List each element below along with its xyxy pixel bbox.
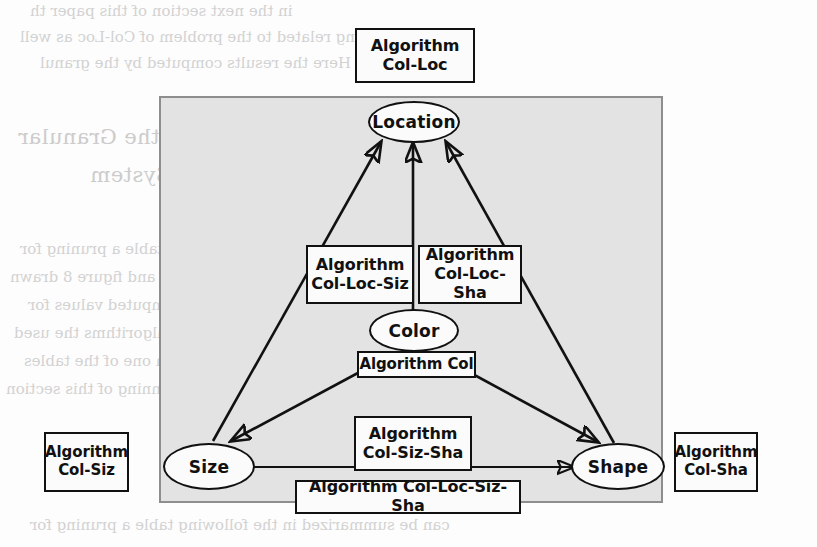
algorithm-box-col-loc-sha[interactable]: Algorithm Col-Loc-Sha [418, 245, 522, 304]
algorithm-box-col-sha[interactable]: Algorithm Col-Sha [674, 432, 758, 492]
algorithm-box-col-loc-line1: Algorithm [371, 37, 460, 56]
algorithm-box-col-loc-line2: Col-Loc [383, 56, 448, 75]
node-shape[interactable]: Shape [571, 443, 665, 490]
node-size[interactable]: Size [163, 443, 255, 490]
algorithm-box-col-loc[interactable]: Algorithm Col-Loc [355, 28, 475, 83]
node-color-label: Color [388, 321, 439, 341]
algorithm-box-col-loc-siz-line1: Algorithm [316, 256, 405, 275]
algorithm-box-col-siz-sha-line2: Col-Siz-Sha [363, 444, 463, 463]
algorithm-box-col-loc-sha-line2: Col-Loc-Sha [420, 265, 520, 303]
node-shape-label: Shape [588, 457, 649, 477]
algorithm-box-col-siz-line2: Col-Siz [58, 462, 115, 480]
scanned-page: in the next section of this paper th eve… [0, 0, 817, 547]
algorithm-box-col-loc-siz-sha-line1: Algorithm Col-Loc-Siz-Sha [297, 478, 519, 516]
algorithm-box-col-sha-line2: Col-Sha [684, 462, 748, 480]
algorithm-box-col-siz-line1: Algorithm [45, 444, 128, 462]
node-location-label: Location [372, 112, 455, 132]
algorithm-graph-diagram: Location Color Size Shape Algorithm Col-… [0, 0, 817, 547]
algorithm-box-col-siz-sha-line1: Algorithm [369, 425, 458, 444]
algorithm-box-col-sha-line1: Algorithm [675, 444, 758, 462]
node-color[interactable]: Color [369, 309, 459, 352]
algorithm-box-col-siz-sha[interactable]: Algorithm Col-Siz-Sha [354, 416, 472, 471]
algorithm-box-col-loc-siz-sha[interactable]: Algorithm Col-Loc-Siz-Sha [295, 480, 521, 514]
algorithm-box-col-loc-siz-line2: Col-Loc-Siz [311, 275, 408, 294]
node-location[interactable]: Location [368, 101, 460, 143]
algorithm-box-col-line1: Algorithm Col [359, 356, 473, 374]
algorithm-box-col-siz[interactable]: Algorithm Col-Siz [44, 432, 129, 492]
algorithm-box-col-loc-siz[interactable]: Algorithm Col-Loc-Siz [306, 245, 414, 304]
node-size-label: Size [189, 457, 229, 477]
algorithm-box-col[interactable]: Algorithm Col [357, 351, 476, 378]
algorithm-box-col-loc-sha-line1: Algorithm [426, 246, 515, 265]
